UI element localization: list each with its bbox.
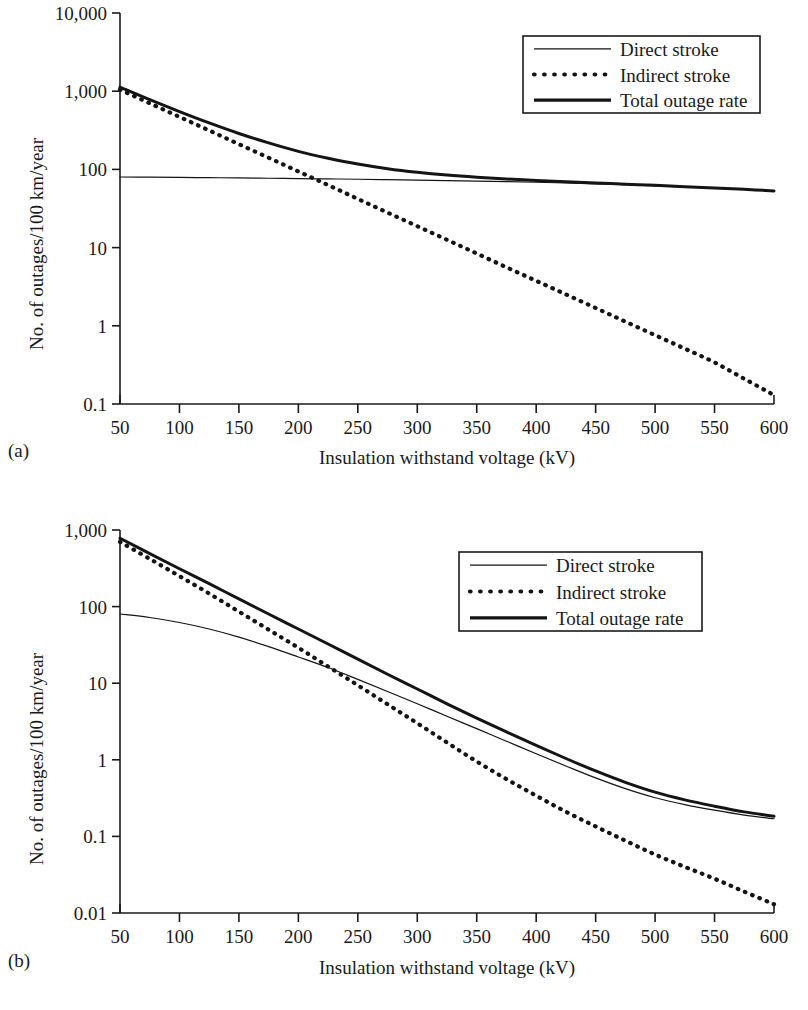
x-tick-label: 600 — [760, 417, 789, 438]
plot-area-a: 10,0001,0001001010.150100150200250300350… — [0, 0, 808, 490]
y-tick-label: 100 — [79, 159, 108, 180]
x-tick-label: 350 — [462, 926, 491, 947]
panel-letter-b: (b) — [8, 950, 30, 972]
x-tick-label: 150 — [225, 926, 254, 947]
y-tick-label: 1,000 — [64, 520, 107, 541]
x-tick-label: 500 — [641, 417, 670, 438]
y-tick-label: 10 — [88, 673, 107, 694]
x-tick-label: 600 — [760, 926, 789, 947]
legend-label: Total outage rate — [620, 90, 747, 111]
x-tick-label: 150 — [225, 417, 254, 438]
x-tick-label: 100 — [165, 926, 194, 947]
plot-area-b: 1,0001001010.10.015010015020025030035040… — [0, 500, 808, 1010]
figure-panel-a: 10,0001,0001001010.150100150200250300350… — [0, 0, 808, 490]
x-tick-label: 550 — [700, 417, 729, 438]
x-tick-label: 200 — [284, 417, 313, 438]
panel-letter-a: (a) — [8, 440, 29, 462]
legend-label: Direct stroke — [620, 39, 719, 60]
series-line-indirect-stroke — [120, 90, 774, 396]
x-tick-label: 50 — [111, 417, 130, 438]
x-tick-label: 450 — [581, 417, 610, 438]
x-axis-label-b: Insulation withstand voltage (kV) — [120, 957, 774, 979]
chart-svg-b: 1,0001001010.10.015010015020025030035040… — [0, 500, 808, 1010]
y-tick-label: 1,000 — [64, 81, 107, 102]
y-tick-label: 100 — [79, 597, 108, 618]
x-tick-label: 400 — [522, 926, 551, 947]
legend-label: Direct stroke — [556, 555, 655, 576]
x-tick-label: 200 — [284, 926, 313, 947]
chart-svg-a: 10,0001,0001001010.150100150200250300350… — [0, 0, 808, 490]
x-tick-label: 450 — [581, 926, 610, 947]
x-tick-label: 100 — [165, 417, 194, 438]
y-tick-label: 0.1 — [83, 826, 107, 847]
legend-label: Total outage rate — [556, 608, 683, 629]
y-axis-label-b: No. of outages/100 km/year — [26, 653, 48, 865]
x-axis-label-a: Insulation withstand voltage (kV) — [120, 447, 774, 469]
x-tick-label: 300 — [403, 417, 432, 438]
x-tick-label: 400 — [522, 417, 551, 438]
x-tick-label: 300 — [403, 926, 432, 947]
x-tick-label: 350 — [462, 417, 491, 438]
y-tick-label: 1 — [98, 316, 108, 337]
x-tick-label: 500 — [641, 926, 670, 947]
x-tick-label: 550 — [700, 926, 729, 947]
y-tick-label: 0.1 — [83, 394, 107, 415]
legend-label: Indirect stroke — [620, 65, 730, 86]
series-line-direct-stroke — [120, 177, 774, 191]
y-tick-label: 1 — [98, 750, 108, 771]
y-tick-label: 10 — [88, 238, 107, 259]
x-tick-label: 50 — [111, 926, 130, 947]
figure-panel-b: 1,0001001010.10.015010015020025030035040… — [0, 500, 808, 1010]
y-axis-label-a: No. of outages/100 km/year — [26, 138, 48, 350]
y-tick-label: 10,000 — [55, 3, 107, 24]
series-line-direct-stroke — [120, 614, 774, 819]
x-tick-label: 250 — [344, 926, 373, 947]
y-tick-label: 0.01 — [74, 903, 107, 924]
legend-label: Indirect stroke — [556, 582, 666, 603]
x-tick-label: 250 — [344, 417, 373, 438]
